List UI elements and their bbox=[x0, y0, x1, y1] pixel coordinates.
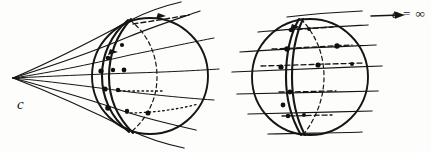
left-dot-1 bbox=[106, 56, 111, 61]
label-c-point: c bbox=[17, 96, 24, 113]
left-dot-9 bbox=[146, 111, 151, 116]
right-meridian-front-b bbox=[292, 19, 305, 135]
right-meridian-back bbox=[301, 19, 324, 135]
left-dot-7 bbox=[105, 105, 111, 111]
figure-container: c c = ∞ bbox=[0, 0, 431, 153]
left-dot-6 bbox=[116, 88, 120, 92]
right-ray-7 bbox=[268, 132, 362, 134]
right-ray-4 bbox=[232, 66, 382, 72]
right-ray-6 bbox=[248, 111, 372, 114]
right-dot-5 bbox=[315, 62, 320, 67]
left-ray-1 bbox=[13, 2, 181, 78]
left-meridian-back bbox=[130, 20, 157, 132]
left-dot-3 bbox=[111, 68, 115, 72]
left-ray-7 bbox=[13, 78, 184, 148]
right-panel-parallel-rays bbox=[232, 11, 405, 135]
left-panel-converging-rays bbox=[13, 2, 219, 148]
left-dot-2 bbox=[98, 68, 103, 73]
right-dot-3 bbox=[334, 43, 339, 48]
left-chord-lower bbox=[126, 104, 198, 113]
right-dot-11 bbox=[307, 27, 311, 31]
right-dot-2 bbox=[284, 46, 289, 51]
right-dot-7 bbox=[288, 90, 293, 95]
right-dot-10 bbox=[302, 113, 306, 117]
hand-drawn-diagram bbox=[0, 0, 431, 153]
left-ray-5 bbox=[13, 78, 214, 100]
left-dot-5 bbox=[102, 86, 107, 91]
left-dot-8 bbox=[125, 109, 129, 113]
right-dot-8 bbox=[281, 103, 286, 108]
right-ray-1 bbox=[287, 11, 362, 17]
right-dot-4 bbox=[278, 64, 283, 69]
right-sphere-outline bbox=[252, 19, 368, 135]
right-dot-9 bbox=[286, 114, 291, 119]
left-ray-bundle bbox=[13, 2, 219, 148]
left-dot-10 bbox=[120, 43, 124, 47]
right-chord-3 bbox=[261, 63, 364, 66]
right-dot-6 bbox=[350, 62, 354, 66]
left-ray-6 bbox=[13, 78, 196, 130]
left-dot-4 bbox=[122, 68, 127, 73]
label-c-infinity: c = ∞ bbox=[392, 6, 425, 22]
left-ray-2 bbox=[13, 11, 200, 78]
